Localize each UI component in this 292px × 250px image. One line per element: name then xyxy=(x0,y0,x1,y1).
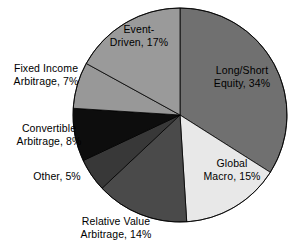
pie-label-relative-value-arbitrage: Relative Value Arbitrage, 14% xyxy=(60,215,172,240)
pie-label-other: Other, 5% xyxy=(16,170,98,183)
pie-chart: Long/Short Equity, 34% Global Macro, 15%… xyxy=(0,0,292,250)
pie-label-event-driven: Event- Driven, 17% xyxy=(96,23,182,48)
pie-label-global-macro: Global Macro, 15% xyxy=(190,157,274,182)
pie-label-convertible-arbitrage: Convertible Arbitrage, 8% xyxy=(4,122,94,147)
pie-label-long-short-equity: Long/Short Equity, 34% xyxy=(196,64,288,89)
pie-label-fixed-income-arbitrage: Fixed Income Arbitrage, 7% xyxy=(0,62,92,87)
